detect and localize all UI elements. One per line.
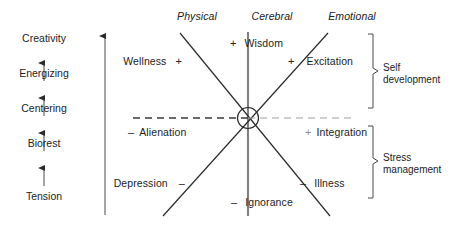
bracket-stress-management-line1: Stress xyxy=(383,152,441,164)
pole-depression-sign: – xyxy=(179,177,185,189)
bracket-stress-management-line2: management xyxy=(383,164,441,176)
pole-depression-label: Depression xyxy=(114,177,168,189)
pole-wellness: Wellness+ xyxy=(123,55,182,67)
ladder-step-tension: Tension xyxy=(26,190,62,202)
ladder-step-energizing: Energizing xyxy=(19,67,69,79)
self-development-bracket xyxy=(368,34,378,108)
ladder-step-creativity: Creativity xyxy=(22,32,66,44)
pole-integration-label: Integration xyxy=(317,126,368,138)
pole-illness-label: Illness xyxy=(314,177,344,189)
pole-excitation-label: Excitation xyxy=(307,55,354,67)
pole-alienation-label: Alienation xyxy=(139,126,186,138)
pole-excitation: +Excitation xyxy=(288,55,353,67)
pole-wisdom-label: Wisdom xyxy=(245,37,284,49)
pole-ignorance-sign: – xyxy=(231,196,237,208)
stress-management-bracket xyxy=(368,126,378,198)
pole-wellness-sign: + xyxy=(175,55,182,67)
pole-ignorance: –Ignorance xyxy=(231,196,293,208)
bracket-self-development-line1: Self xyxy=(383,62,440,74)
bracket-label-stress-management: Stress management xyxy=(383,152,441,175)
bracket-self-development-line2: development xyxy=(383,74,440,86)
pole-wellness-label: Wellness xyxy=(123,55,166,67)
pole-ignorance-label: Ignorance xyxy=(245,196,293,208)
pole-wisdom-sign: + xyxy=(230,37,237,49)
pole-alienation-sign: – xyxy=(128,126,134,138)
axis-header-physical: Physical xyxy=(177,10,217,22)
pole-integration-sign: + xyxy=(305,126,312,138)
ladder-step-biorest: Biorest xyxy=(28,137,61,149)
bracket-label-self-development: Self development xyxy=(383,62,440,85)
diagram-graphics xyxy=(0,0,458,228)
pole-excitation-sign: + xyxy=(288,55,295,67)
pole-wisdom: +Wisdom xyxy=(230,37,283,49)
ladder-step-centering: Centering xyxy=(21,102,67,114)
axis-header-cerebral: Cerebral xyxy=(251,10,292,22)
pole-illness: –Illness xyxy=(300,177,345,189)
pole-alienation: –Alienation xyxy=(128,126,186,138)
pole-integration: +Integration xyxy=(305,126,367,138)
pole-depression: Depression– xyxy=(114,177,185,189)
figure-canvas: Physical Cerebral Emotional Creativity E… xyxy=(0,0,458,228)
axis-header-emotional: Emotional xyxy=(328,10,376,22)
pole-illness-sign: – xyxy=(300,177,306,189)
